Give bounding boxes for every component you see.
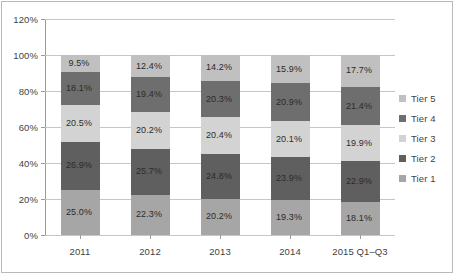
bar-segment-tier-2[interactable]: 24.8%	[201, 154, 240, 199]
category-axis-label: 2013	[209, 246, 231, 257]
bar-segment-label: 22.3%	[136, 210, 162, 219]
bar-segment-label: 19.3%	[276, 213, 302, 222]
legend-label: Tier 5	[411, 93, 436, 104]
value-axis-label: 20%	[19, 194, 38, 205]
bar-segment-tier-3[interactable]: 20.1%	[271, 121, 310, 157]
value-axis-label: 120%	[13, 14, 38, 25]
bar-segment-label: 18.1%	[66, 84, 92, 93]
bar-segment-tier-5[interactable]: 15.9%	[271, 55, 310, 84]
bar-segment-label: 22.9%	[346, 177, 372, 186]
bar-segment-tier-5[interactable]: 17.7%	[341, 55, 380, 87]
legend-label: Tier 4	[411, 113, 436, 124]
plot-area: 0%20%40%60%80%100%120% 25.0%26.9%20.5%18…	[45, 19, 395, 235]
bar-segment-label: 25.0%	[66, 208, 92, 217]
bar-segment-tier-4[interactable]: 18.1%	[61, 72, 100, 105]
value-axis-tick	[41, 163, 45, 164]
legend-swatch-icon	[399, 155, 406, 162]
value-axis-label: 80%	[19, 86, 38, 97]
chart-legend: Tier 5Tier 4Tier 3Tier 2Tier 1	[399, 88, 436, 188]
bar-group: 25.0%26.9%20.5%18.1%9.5%2011	[61, 19, 100, 235]
bar-segment-tier-3[interactable]: 20.5%	[61, 105, 100, 142]
value-axis-label: 60%	[19, 122, 38, 133]
bar-segment-label: 9.5%	[69, 59, 90, 68]
bar-segment-label: 25.7%	[136, 167, 162, 176]
value-axis-tick	[41, 55, 45, 56]
bar-segment-tier-5[interactable]: 14.2%	[201, 55, 240, 81]
legend-item-tier-4[interactable]: Tier 4	[399, 108, 436, 128]
value-axis-tick	[41, 127, 45, 128]
bar-segment-label: 26.9%	[66, 161, 92, 170]
bar-segment-tier-5[interactable]: 9.5%	[61, 55, 100, 72]
bar-group: 20.2%24.8%20.4%20.3%14.2%2013	[201, 19, 240, 235]
value-axis-tick	[41, 235, 45, 236]
bar-group: 22.3%25.7%20.2%19.4%12.4%2012	[131, 19, 170, 235]
bar-segment-label: 24.8%	[206, 172, 232, 181]
bar-segment-label: 19.9%	[346, 139, 372, 148]
value-axis-label: 100%	[13, 50, 38, 61]
stacked-bar[interactable]: 22.3%25.7%20.2%19.4%12.4%	[131, 55, 170, 235]
bar-segment-tier-2[interactable]: 26.9%	[61, 142, 100, 190]
legend-swatch-icon	[399, 115, 406, 122]
category-axis-tick	[80, 235, 81, 239]
category-axis-label: 2011	[70, 246, 91, 257]
bar-segment-tier-3[interactable]: 20.4%	[201, 117, 240, 154]
value-axis-label: 0%	[24, 230, 38, 241]
bar-segment-tier-1[interactable]: 19.3%	[271, 200, 310, 235]
value-axis-tick	[41, 19, 45, 20]
stacked-bar[interactable]: 20.2%24.8%20.4%20.3%14.2%	[201, 55, 240, 235]
bar-segment-label: 20.2%	[136, 126, 162, 135]
bar-segment-tier-3[interactable]: 20.2%	[131, 112, 170, 148]
bar-segment-tier-1[interactable]: 22.3%	[131, 195, 170, 235]
bar-segment-label: 18.1%	[346, 214, 372, 223]
bar-segment-label: 15.9%	[276, 65, 302, 74]
bar-segment-label: 20.5%	[66, 119, 92, 128]
bar-segment-tier-4[interactable]: 20.3%	[201, 81, 240, 118]
bar-segment-tier-1[interactable]: 18.1%	[341, 202, 380, 235]
legend-label: Tier 3	[411, 133, 436, 144]
bar-segment-label: 20.9%	[276, 98, 302, 107]
bar-segment-label: 20.1%	[276, 135, 302, 144]
bar-segment-tier-1[interactable]: 25.0%	[61, 190, 100, 235]
category-axis-tick	[150, 235, 151, 239]
bar-segment-label: 14.2%	[206, 63, 232, 72]
bar-segment-tier-3[interactable]: 19.9%	[341, 125, 380, 161]
bar-segment-tier-5[interactable]: 12.4%	[131, 55, 170, 77]
category-axis-label: 2015 Q1–Q3	[332, 246, 387, 257]
bar-segment-label: 17.7%	[346, 66, 372, 75]
stacked-bar[interactable]: 19.3%23.9%20.1%20.9%15.9%	[271, 55, 310, 235]
legend-swatch-icon	[399, 95, 406, 102]
bar-segment-tier-2[interactable]: 23.9%	[271, 157, 310, 200]
bar-segment-tier-4[interactable]: 19.4%	[131, 77, 170, 112]
category-axis-tick	[360, 235, 361, 239]
legend-label: Tier 1	[411, 173, 436, 184]
bar-segment-label: 20.2%	[206, 212, 232, 221]
value-axis-label: 40%	[19, 158, 38, 169]
category-axis-label: 2014	[279, 246, 301, 257]
value-axis-tick	[41, 91, 45, 92]
category-axis-label: 2012	[139, 246, 161, 257]
bar-segment-tier-1[interactable]: 20.2%	[201, 199, 240, 235]
bar-group: 18.1%22.9%19.9%21.4%17.7%2015 Q1–Q3	[341, 19, 380, 235]
bar-segment-label: 19.4%	[136, 90, 162, 99]
category-axis-tick	[220, 235, 221, 239]
value-axis-tick	[41, 199, 45, 200]
chart-container: 0%20%40%60%80%100%120% 25.0%26.9%20.5%18…	[0, 0, 454, 274]
legend-item-tier-3[interactable]: Tier 3	[399, 128, 436, 148]
bar-segment-tier-2[interactable]: 25.7%	[131, 149, 170, 195]
category-axis-tick	[290, 235, 291, 239]
bar-segment-label: 20.3%	[206, 95, 232, 104]
legend-item-tier-2[interactable]: Tier 2	[399, 148, 436, 168]
bar-segment-tier-2[interactable]: 22.9%	[341, 161, 380, 202]
stacked-bar[interactable]: 18.1%22.9%19.9%21.4%17.7%	[341, 55, 380, 235]
bar-segment-label: 23.9%	[276, 174, 302, 183]
bar-segment-tier-4[interactable]: 20.9%	[271, 83, 310, 121]
bar-group: 19.3%23.9%20.1%20.9%15.9%2014	[271, 19, 310, 235]
legend-item-tier-5[interactable]: Tier 5	[399, 88, 436, 108]
legend-swatch-icon	[399, 135, 406, 142]
legend-swatch-icon	[399, 175, 406, 182]
stacked-bar[interactable]: 25.0%26.9%20.5%18.1%9.5%	[61, 55, 100, 235]
bar-segment-tier-4[interactable]: 21.4%	[341, 87, 380, 126]
legend-item-tier-1[interactable]: Tier 1	[399, 168, 436, 188]
bar-segment-label: 20.4%	[206, 131, 232, 140]
legend-label: Tier 2	[411, 153, 436, 164]
